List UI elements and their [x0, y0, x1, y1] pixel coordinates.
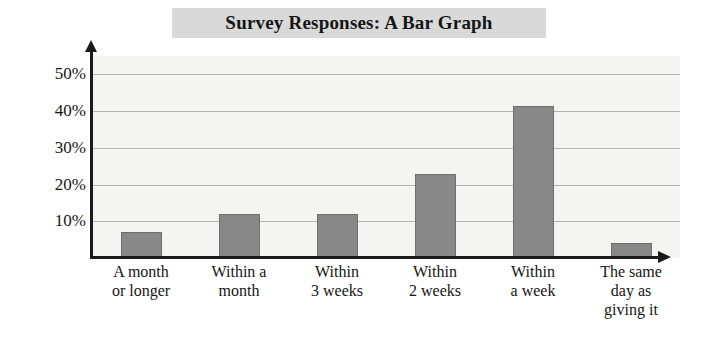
y-tick-label: 30% [30, 138, 86, 158]
bar [121, 232, 162, 258]
gridline-10% [92, 221, 680, 222]
x-category-label-line: day as [582, 281, 680, 300]
x-category-label: Withina week [484, 262, 582, 300]
y-tick-label: 20% [30, 175, 86, 195]
gridline-50% [92, 74, 680, 75]
y-tick-label: 10% [30, 211, 86, 231]
y-axis-tick-labels: 10%20%30%40%50% [26, 0, 86, 350]
x-category-label-line: Within [386, 262, 484, 281]
y-tick-label: 50% [30, 64, 86, 84]
bar [219, 214, 260, 258]
x-category-label-line: 2 weeks [386, 281, 484, 300]
plot-area [92, 56, 680, 258]
gridline-40% [92, 111, 680, 112]
y-tick-label: 40% [30, 101, 86, 121]
x-category-label-line: Within [484, 262, 582, 281]
y-axis-line [90, 50, 93, 258]
gridline-20% [92, 185, 680, 186]
bar [415, 174, 456, 258]
x-category-label-line: a week [484, 281, 582, 300]
x-category-label-line: Within a [190, 262, 288, 281]
x-category-label-line: giving it [582, 300, 680, 319]
chart-title: Survey Responses: A Bar Graph [172, 8, 546, 38]
x-category-label-line: month [190, 281, 288, 300]
x-category-label-line: 3 weeks [288, 281, 386, 300]
bar [513, 106, 554, 258]
x-category-label-line: The same [582, 262, 680, 281]
x-category-label: Within2 weeks [386, 262, 484, 300]
bar-chart-figure: Survey Responses: A Bar Graph 10%20%30%4… [0, 0, 701, 350]
x-category-label: Within3 weeks [288, 262, 386, 300]
x-category-label-line: A month [92, 262, 190, 281]
x-axis-line [90, 256, 660, 259]
gridline-30% [92, 148, 680, 149]
bar [317, 214, 358, 258]
x-category-label-line: or longer [92, 281, 190, 300]
x-category-label: Within amonth [190, 262, 288, 300]
y-axis-arrow-icon [85, 40, 97, 52]
x-category-label: The sameday asgiving it [582, 262, 680, 319]
x-category-label-line: Within [288, 262, 386, 281]
x-category-label: A monthor longer [92, 262, 190, 300]
x-axis-category-labels: A monthor longerWithin amonthWithin3 wee… [92, 262, 680, 350]
